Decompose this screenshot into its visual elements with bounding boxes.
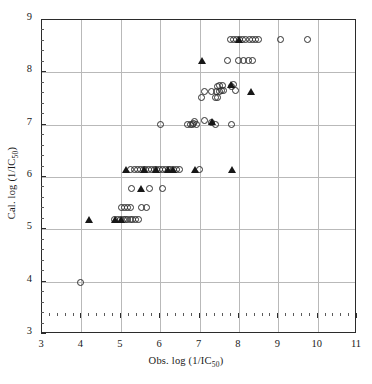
gridline-horizontal [42,229,355,230]
y-axis-title-main: Cal. log (1/IC [6,158,17,219]
data-point-circle [143,204,150,211]
x-axis-tick [120,313,121,318]
gridline-vertical [318,20,319,332]
y-axis-minor-tick [41,29,44,30]
x-axis-tick-label: 6 [144,338,174,349]
y-axis-tick [41,228,46,229]
data-point-triangle [137,185,145,192]
data-point-triangle [117,216,125,223]
x-axis-minor-tick [325,313,326,316]
x-axis-tick [80,313,81,318]
data-point-circle [146,185,153,192]
y-axis-tick [41,71,46,72]
x-axis-minor-tick [136,313,137,316]
y-axis-tick-label: 9 [14,11,32,22]
data-point-circle [228,121,235,128]
y-axis-minor-tick [41,61,44,62]
plot-area [41,19,356,333]
data-point-triangle [191,166,199,173]
gridline-vertical [160,20,161,332]
data-point-triangle [152,166,160,173]
x-axis-minor-tick [143,313,144,316]
data-point-triangle [122,166,130,173]
data-point-triangle [85,216,93,223]
x-axis-minor-tick [65,313,66,316]
y-axis-minor-tick [41,291,44,292]
x-axis-minor-tick [309,313,310,316]
y-axis-minor-tick [41,186,44,187]
x-axis-tick-label: 3 [26,338,56,349]
gridline-horizontal [42,72,355,73]
data-point-circle [193,121,200,128]
y-axis-minor-tick [41,197,44,198]
data-point-circle [277,36,284,43]
x-axis-tick-label: 11 [341,338,371,349]
y-axis-minor-tick [41,113,44,114]
y-axis-minor-tick [41,50,44,51]
x-axis-tick [238,313,239,318]
y-axis-minor-tick [41,260,44,261]
x-axis-tick-label: 5 [105,338,135,349]
x-axis-tick [199,313,200,318]
y-axis-minor-tick [41,312,44,313]
y-axis-tick-label: 3 [14,325,32,336]
data-point-circle [159,185,166,192]
x-axis-minor-tick [262,313,263,316]
y-axis-tick [41,176,46,177]
data-point-triangle [228,166,236,173]
x-axis-minor-tick [301,313,302,316]
data-point-circle [77,279,84,286]
data-point-triangle [247,88,255,95]
y-axis-title-subscript: 50 [11,151,20,159]
y-axis-title-tail: ) [6,147,17,151]
y-axis-tick [41,333,46,334]
x-axis-minor-tick [214,313,215,316]
x-axis-minor-tick [269,313,270,316]
x-axis-tick-label: 8 [223,338,253,349]
x-axis-minor-tick [96,313,97,316]
x-axis-minor-tick [57,313,58,316]
data-point-triangle [227,81,235,88]
y-axis-minor-tick [41,249,44,250]
y-axis-minor-tick [41,218,44,219]
y-axis-minor-tick [41,239,44,240]
data-point-triangle [140,166,148,173]
y-axis-tick [41,281,46,282]
y-axis-tick [41,19,46,20]
data-point-circle [128,185,135,192]
y-axis-minor-tick [41,134,44,135]
gridline-vertical [239,20,240,332]
data-point-triangle [198,57,206,64]
x-axis-minor-tick [151,313,152,316]
x-axis-title-subscript: 50 [212,360,220,369]
x-axis-tick [277,313,278,318]
y-axis-minor-tick [41,82,44,83]
x-axis-tick-label: 10 [302,338,332,349]
gridline-vertical [278,20,279,332]
x-axis-tick [317,313,318,318]
x-axis-minor-tick [348,313,349,316]
data-point-circle [255,36,262,43]
y-axis-minor-tick [41,166,44,167]
x-axis-minor-tick [73,313,74,316]
x-axis-title-main: Obs. log (1/IC [149,355,212,366]
x-axis-minor-tick [285,313,286,316]
y-axis-minor-tick [41,92,44,93]
x-axis-minor-tick [206,313,207,316]
data-point-circle [304,36,311,43]
x-axis-tick [41,313,42,318]
data-point-triangle [235,36,243,43]
x-axis-minor-tick [88,313,89,316]
x-axis-minor-tick [230,313,231,316]
y-axis-tick-label: 4 [14,273,32,284]
x-axis-minor-tick [191,313,192,316]
data-point-circle [224,57,231,64]
data-point-circle [127,204,134,211]
y-axis-minor-tick [41,207,44,208]
y-axis-minor-tick [41,302,44,303]
y-axis-title: Cal. log (1/IC50) [6,108,20,258]
y-axis-minor-tick [41,40,44,41]
gridline-horizontal [42,177,355,178]
data-point-circle [157,121,164,128]
y-axis-tick-label: 8 [14,63,32,74]
